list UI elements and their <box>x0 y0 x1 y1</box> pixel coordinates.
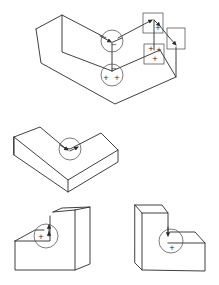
plus-label: + <box>38 233 44 241</box>
minus-label: − <box>111 65 117 73</box>
plus-label: + <box>152 55 158 63</box>
minus-label: − <box>111 41 117 49</box>
plus-label: + <box>156 46 162 54</box>
plus-label: + <box>155 24 161 32</box>
top-figure: − − + + + + + + <box>36 13 185 104</box>
plus-label: + <box>148 45 154 53</box>
middle-figure <box>14 127 118 192</box>
line-labeling-diagram: − − + + + + + + + <box>0 0 219 285</box>
plus-label: + <box>114 74 120 82</box>
plus-label: + <box>103 74 109 82</box>
plus-label: + <box>169 244 175 252</box>
bottom-left-figure: + <box>15 207 90 270</box>
bottom-right-figure: + <box>135 205 205 271</box>
